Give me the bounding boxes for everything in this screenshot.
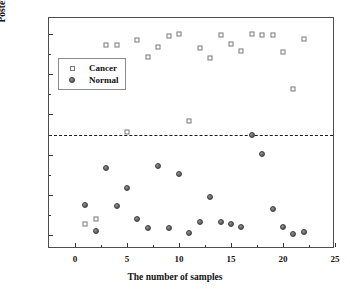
x-tick-label: 5 [125, 254, 130, 264]
filled-circle-icon [63, 77, 81, 83]
legend-label-cancer: Cancer [89, 63, 117, 73]
cancer-data-point [218, 33, 223, 38]
y-tick-minor [49, 215, 51, 216]
cancer-data-point [229, 42, 234, 47]
x-tick-major [231, 243, 232, 247]
normal-data-point [124, 185, 130, 191]
x-tick-minor [309, 245, 310, 247]
y-axis-title: Posterior probability [0, 0, 7, 60]
y-tick-minor [49, 54, 51, 55]
y-tick-major [49, 195, 53, 196]
cancer-data-point [114, 43, 119, 48]
x-tick-label: 15 [227, 254, 236, 264]
x-tick-minor [205, 245, 206, 247]
open-square-icon [63, 66, 81, 71]
x-tick-label: 0 [73, 254, 78, 264]
cancer-data-point [270, 32, 275, 37]
normal-data-point [249, 132, 255, 138]
normal-data-point [93, 228, 99, 234]
x-tick-minor [101, 245, 102, 247]
y-tick-major [49, 74, 53, 75]
cancer-data-point [177, 32, 182, 37]
cancer-data-point [301, 36, 306, 41]
x-tick-major [127, 243, 128, 247]
cancer-data-point [260, 32, 265, 37]
normal-data-point [197, 219, 203, 225]
cancer-data-point [281, 50, 286, 55]
posterior-probability-scatter-chart: Posterior probability The number of samp… [0, 0, 350, 297]
x-tick-minor [257, 245, 258, 247]
x-tick-minor [153, 245, 154, 247]
x-axis-title: The number of samples [0, 272, 350, 282]
x-tick-label: 10 [175, 254, 184, 264]
normal-data-point [218, 219, 224, 225]
normal-data-point [176, 171, 182, 177]
normal-data-point [270, 206, 276, 212]
cancer-data-point [104, 43, 109, 48]
cancer-data-point [187, 119, 192, 124]
cancer-data-point [208, 55, 213, 60]
x-tick-major [75, 243, 76, 247]
y-tick-major [49, 155, 53, 156]
normal-data-point [82, 202, 88, 208]
y-tick-minor [49, 94, 51, 95]
legend-item-normal: Normal [63, 74, 119, 86]
normal-data-point [186, 230, 192, 236]
cancer-data-point [93, 217, 98, 222]
normal-data-point [280, 224, 286, 230]
cancer-data-point [249, 32, 254, 37]
y-tick-minor [49, 135, 51, 136]
normal-data-point [301, 229, 307, 235]
normal-data-point [290, 231, 296, 237]
normal-data-point [166, 225, 172, 231]
normal-data-point [114, 203, 120, 209]
x-tick-major [283, 243, 284, 247]
x-tick-major [179, 243, 180, 247]
legend-item-cancer: Cancer [63, 62, 119, 74]
plot-area [49, 18, 333, 247]
chart-legend: Cancer Normal [58, 58, 126, 90]
y-tick-major [49, 114, 53, 115]
cancer-data-point [145, 54, 150, 59]
normal-data-point [238, 224, 244, 230]
normal-data-point [207, 194, 213, 200]
cancer-data-point [239, 49, 244, 54]
cancer-data-point [135, 37, 140, 42]
cancer-data-point [125, 129, 130, 134]
normal-data-point [145, 225, 151, 231]
x-tick-label: 20 [279, 254, 288, 264]
normal-data-point [259, 151, 265, 157]
cancer-data-point [197, 46, 202, 51]
normal-data-point [155, 163, 161, 169]
x-tick-major [335, 243, 336, 247]
plot-frame: 05101520250.00.20.40.60.81.0 Cancer Norm… [48, 17, 334, 248]
normal-data-point [228, 221, 234, 227]
y-tick-major [49, 235, 53, 236]
legend-label-normal: Normal [89, 75, 119, 85]
cancer-data-point [291, 87, 296, 92]
normal-data-point [134, 216, 140, 222]
normal-data-point [103, 165, 109, 171]
x-tick-label: 25 [331, 254, 340, 264]
y-tick-minor [49, 175, 51, 176]
y-tick-major [49, 34, 53, 35]
decision-threshold-line [49, 135, 333, 136]
cancer-data-point [156, 44, 161, 49]
cancer-data-point [83, 221, 88, 226]
cancer-data-point [166, 34, 171, 39]
